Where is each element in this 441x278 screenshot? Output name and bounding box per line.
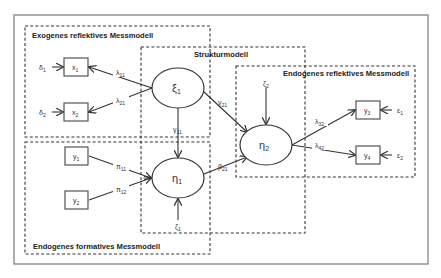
indicator-y4: y4 bbox=[356, 146, 380, 164]
error-zeta1: ζ1 bbox=[175, 223, 181, 232]
indicator-x2: x2 bbox=[64, 103, 88, 121]
error-zeta2: ζ2 bbox=[263, 80, 269, 89]
error-eps1: ε1 bbox=[397, 107, 403, 116]
indicator-y1: y1 bbox=[65, 147, 88, 165]
endogenous-formative-title: Endogenes formatives Messmodell bbox=[33, 242, 160, 251]
exogenous-reflective-title: Exogenes reflektives Messmodell bbox=[32, 31, 153, 40]
error-delta1: δ1 bbox=[39, 64, 46, 73]
indicator-x1: x1 bbox=[64, 58, 88, 76]
latent-eta2: η2 bbox=[240, 125, 292, 165]
latent-xi1: ξ1 bbox=[152, 68, 204, 108]
indicator-y2: y2 bbox=[65, 191, 88, 209]
path-beta21: β21 bbox=[218, 163, 228, 172]
latent-eta1: η1 bbox=[152, 158, 204, 198]
structural-title: Strukturmodell bbox=[194, 50, 248, 59]
error-eps2: ε2 bbox=[397, 152, 403, 161]
sem-path-diagram: Exogenes reflektives Messmodell Struktur… bbox=[0, 0, 441, 278]
error-delta2: δ2 bbox=[39, 109, 46, 118]
endogenous-reflective-title: Endogenes reflektives Messmodell bbox=[283, 69, 409, 78]
lambda32-arrow bbox=[292, 110, 355, 145]
indicator-y3: y3 bbox=[356, 101, 380, 119]
